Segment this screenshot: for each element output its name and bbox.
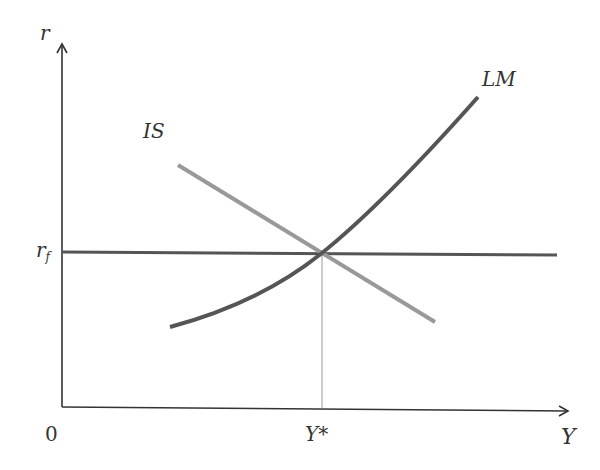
y-axis-label: r xyxy=(40,21,51,45)
x-axis xyxy=(62,407,568,411)
x-axis-label: Y xyxy=(561,424,578,449)
is-lm-diagram: r Y 0 rf Y* IS LM xyxy=(0,0,600,470)
rf-label: rf xyxy=(36,238,53,264)
is-curve xyxy=(178,165,435,322)
lm-curve xyxy=(170,97,478,327)
lm-label: LM xyxy=(481,67,516,91)
origin-label: 0 xyxy=(45,422,58,446)
ystar-label: Y* xyxy=(305,422,328,446)
is-label: IS xyxy=(142,119,165,143)
rf-line xyxy=(62,252,557,255)
